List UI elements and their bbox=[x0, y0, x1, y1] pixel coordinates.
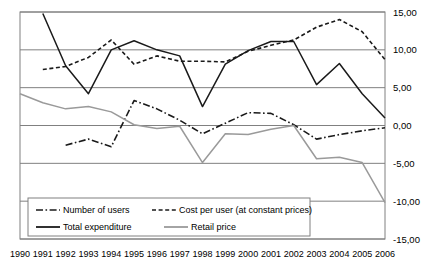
x-tick-label: 1998 bbox=[192, 249, 212, 259]
legend-label-2: Total expenditure bbox=[63, 222, 132, 232]
y-tick-label: -5,00 bbox=[393, 158, 415, 169]
x-tick-label: 1996 bbox=[147, 249, 167, 259]
y-tick-label: 0,00 bbox=[393, 120, 412, 131]
line-chart: 15,0010,005,000,00-5,00-10,00-15,00 1990… bbox=[0, 0, 440, 265]
x-tick-label: 1997 bbox=[170, 249, 190, 259]
y-tick-label: 5,00 bbox=[393, 82, 412, 93]
y-tick-label: -10,00 bbox=[393, 196, 420, 207]
x-tick-label: 1991 bbox=[33, 249, 53, 259]
chart-container: 15,0010,005,000,00-5,00-10,00-15,00 1990… bbox=[0, 0, 440, 265]
x-tick-label: 1995 bbox=[124, 249, 144, 259]
x-tick-label: 1992 bbox=[56, 249, 76, 259]
x-tick-label: 2002 bbox=[284, 249, 304, 259]
x-tick-label: 1990 bbox=[10, 249, 30, 259]
x-tick-label: 2004 bbox=[329, 249, 349, 259]
x-axis-tick-labels: 1990199119921993199419951996199719981999… bbox=[10, 249, 395, 259]
x-tick-label: 2005 bbox=[352, 249, 372, 259]
legend-label-3: Retail price bbox=[191, 222, 236, 232]
legend-label-0: Number of users bbox=[63, 205, 130, 215]
x-tick-label: 1999 bbox=[215, 249, 235, 259]
chart-legend: Number of usersCost per user (at constan… bbox=[28, 198, 312, 236]
y-tick-label: 10,00 bbox=[393, 44, 417, 55]
x-tick-label: 2000 bbox=[238, 249, 258, 259]
legend-label-1: Cost per user (at constant prices) bbox=[179, 205, 312, 215]
x-tick-label: 1993 bbox=[78, 249, 98, 259]
x-tick-label: 2001 bbox=[261, 249, 281, 259]
y-tick-label: 15,00 bbox=[393, 7, 417, 18]
x-tick-label: 2003 bbox=[307, 249, 327, 259]
x-tick-label: 1994 bbox=[101, 249, 121, 259]
x-tick-label: 2006 bbox=[375, 249, 395, 259]
y-tick-label: -15,00 bbox=[393, 234, 420, 245]
